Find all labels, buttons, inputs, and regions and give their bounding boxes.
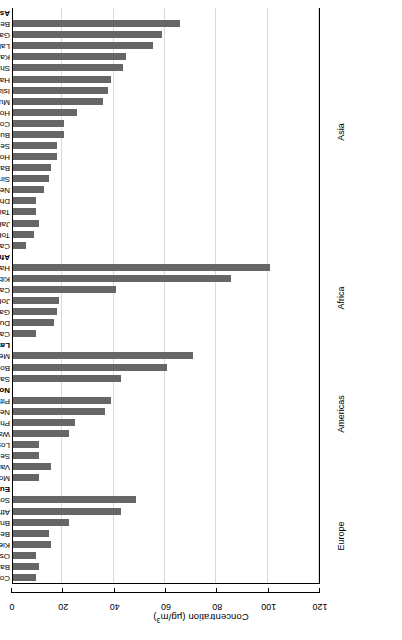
bar-row [13,339,319,350]
category-label: Kibwe [0,274,10,285]
x-tick-120 [319,588,320,593]
x-tick-40 [114,588,115,593]
bar-row [13,40,319,51]
category-label: Hong Kong [0,152,10,163]
bar-row [13,7,319,18]
bar [13,220,39,227]
bar-row [13,350,319,361]
region-labels: AsiaAfricaAmericasEurope [320,8,362,584]
bar-row [13,528,319,539]
bar [13,574,36,581]
bar-row [13,129,319,140]
bar-row [13,295,319,306]
category-label: Lahore [0,41,10,52]
category-label: Brussels [0,518,10,529]
category-labels: AsiaBeijingGangzhouLahoreKarachiShanghai… [0,8,12,584]
bar [13,109,77,116]
bar [13,120,64,127]
x-tick-label-60: 60 [151,602,181,612]
bar [13,286,116,293]
bar-row [13,483,319,494]
category-label: Gangzhou [0,30,10,41]
bar [13,98,103,105]
bar [13,319,54,326]
category-label: North America [0,385,10,396]
category-label: Seattle [0,451,10,462]
bar-row [13,384,319,395]
category-label: Busan [0,130,10,141]
bar-row [13,162,319,173]
category-label: Singapore [0,174,10,185]
bar-row [13,406,319,417]
category-label: Barcelona [0,562,10,573]
bar-row [13,494,319,505]
bar [13,208,36,215]
bar [13,530,49,537]
bar-row [13,140,319,151]
region-label-asia: Asia [320,127,362,137]
air-quality-bar-chart: Concentration (µg/m3) 020406080100120 As… [0,0,402,640]
bar-row [13,273,319,284]
bar [13,508,121,515]
bar [13,375,121,382]
x-axis-title-superscript: 3 [157,617,161,624]
category-label: Sao Paulo [0,374,10,385]
category-label: Vancouver [0,462,10,473]
x-tick-100 [268,588,269,593]
category-label: Latin America [0,340,10,351]
bar [13,297,59,304]
bar-row [13,395,319,406]
category-label: Ho Chi Minh City [0,108,10,119]
x-axis-title-close: ) [153,612,156,623]
category-label: Montreal [0,473,10,484]
x-tick-20 [62,588,63,593]
x-tick-label-40: 40 [100,602,130,612]
x-tick-label-0: 0 [0,602,27,612]
bar-row [13,217,319,228]
category-label: Shanghai [0,63,10,74]
category-label: Seoul [0,141,10,152]
bar [13,541,52,548]
bar [13,164,52,171]
bar-row [13,361,319,372]
category-label: Africa [0,252,10,263]
bar-row [13,96,319,107]
bar [13,452,39,459]
bar-row [13,184,319,195]
bar [13,474,39,481]
bar-row [13,18,319,29]
category-label: New York [0,407,10,418]
bar [13,131,64,138]
bar-row [13,262,319,273]
bar-row [13,317,319,328]
category-label: Bangkok [0,163,10,174]
bar [13,552,36,559]
x-tick-0 [11,588,12,593]
region-label-europe: Europe [320,531,362,541]
bar-row [13,461,319,472]
bar-row [13,51,319,62]
bar-row [13,417,319,428]
x-tick-label-80: 80 [202,602,232,612]
bar [13,364,167,371]
bar-row [13,173,319,184]
bar [13,519,69,526]
category-label: Copenhagen [0,573,10,584]
category-label: Oslo [0,551,10,562]
plot-panel [12,8,320,584]
bar-row [13,505,319,516]
bar-row [13,550,319,561]
bar-row [13,561,319,572]
bar-row [13,373,319,384]
category-label: Gaborone [0,307,10,318]
category-label: New Delhi [0,185,10,196]
bar [13,42,153,49]
bar-row [13,206,319,217]
bar-row [13,517,319,528]
bar [13,430,69,437]
category-label: Pittsburg [0,396,10,407]
bar [13,64,123,71]
bar-row [13,472,319,483]
x-tick-80 [216,588,217,593]
category-label: Kiel [0,540,10,551]
